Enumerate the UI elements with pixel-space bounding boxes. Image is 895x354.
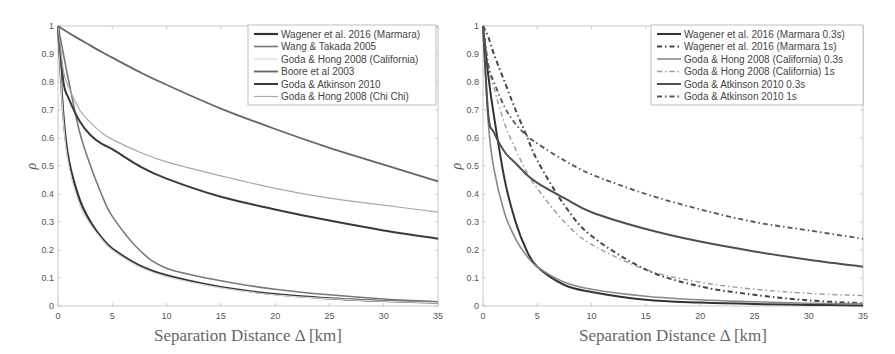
x-tick-label: 20	[270, 311, 280, 321]
y-tick-label: 0.1	[466, 273, 479, 283]
legend-entry: Goda & Hong 2008 (Chi Chi)	[281, 91, 409, 102]
x-tick-label: 5	[535, 311, 540, 321]
legend: Wagener et al. 2016 (Marmara 0.3s)Wagene…	[651, 25, 863, 105]
legend-entry: Wang & Takada 2005	[281, 41, 377, 52]
legend-entry: Boore et al 2003	[281, 66, 355, 77]
legend-entry: Goda & Atkinson 2010 1s	[684, 91, 797, 102]
y-tick-label: 0.6	[41, 133, 54, 143]
y-tick-label: 0.2	[466, 245, 479, 255]
x-tick-label: 25	[324, 311, 334, 321]
x-tick-label: 0	[55, 311, 60, 321]
x-tick-label: 30	[379, 311, 389, 321]
x-tick-label: 20	[695, 311, 705, 321]
y-axis-label: ρ	[24, 162, 39, 170]
right-chart-period-comparison: 00.10.20.30.40.50.60.70.80.9105101520253…	[449, 21, 868, 345]
y-axis-label: ρ	[449, 162, 464, 170]
y-tick-label: 1	[474, 21, 479, 31]
y-tick-label: 0.8	[466, 77, 479, 87]
y-tick-label: 0.4	[41, 189, 54, 199]
y-tick-label: 0.2	[41, 245, 54, 255]
legend-entry: Wagener et al. 2016 (Marmara)	[281, 29, 420, 40]
x-axis-label: Separation Distance Δ [km]	[154, 326, 342, 345]
correlation-charts: 00.10.20.30.40.50.60.70.80.9105101520253…	[0, 0, 895, 354]
legend-entry: Goda & Hong 2008 (California) 1s	[684, 66, 835, 77]
legend-entry: Goda & Hong 2008 (California) 0.3s	[684, 54, 843, 65]
y-tick-label: 0.4	[466, 189, 479, 199]
legend-entry: Goda & Atkinson 2010	[281, 79, 381, 90]
legend-entry: Wagener et al. 2016 (Marmara 1s)	[684, 41, 836, 52]
x-tick-label: 10	[162, 311, 172, 321]
y-tick-label: 0.5	[41, 161, 54, 171]
y-tick-label: 0.3	[41, 217, 54, 227]
x-tick-label: 15	[641, 311, 651, 321]
x-tick-label: 25	[749, 311, 759, 321]
y-tick-label: 0.3	[466, 217, 479, 227]
x-tick-label: 30	[804, 311, 814, 321]
legend-entry: Goda & Hong 2008 (California)	[281, 54, 418, 65]
y-tick-label: 0.8	[41, 77, 54, 87]
y-tick-label: 0.7	[41, 105, 54, 115]
x-tick-label: 5	[110, 311, 115, 321]
x-tick-label: 0	[480, 311, 485, 321]
legend-entry: Goda & Atkinson 2010 0.3s	[684, 79, 805, 90]
y-tick-label: 0.5	[466, 161, 479, 171]
y-tick-label: 0.9	[41, 49, 54, 59]
y-tick-label: 0.6	[466, 133, 479, 143]
x-axis-label: Separation Distance Δ [km]	[579, 326, 767, 345]
legend: Wagener et al. 2016 (Marmara)Wang & Taka…	[248, 25, 436, 105]
y-tick-label: 0.7	[466, 105, 479, 115]
x-tick-label: 15	[216, 311, 226, 321]
left-chart-marmara-vs-models: 00.10.20.30.40.50.60.70.80.9105101520253…	[24, 21, 443, 345]
legend-entry: Wagener et al. 2016 (Marmara 0.3s)	[684, 29, 845, 40]
x-tick-label: 35	[433, 311, 443, 321]
x-tick-label: 35	[858, 311, 868, 321]
y-tick-label: 0.9	[466, 49, 479, 59]
y-tick-label: 1	[49, 21, 54, 31]
y-tick-label: 0	[49, 301, 54, 311]
y-tick-label: 0.1	[41, 273, 54, 283]
x-tick-label: 10	[587, 311, 597, 321]
y-tick-label: 0	[474, 301, 479, 311]
